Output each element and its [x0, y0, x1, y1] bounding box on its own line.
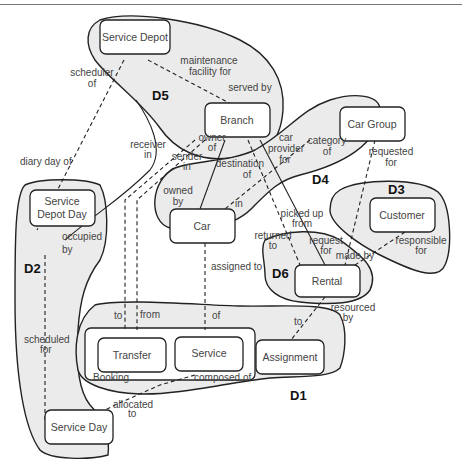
domain-d5-label: D5 — [152, 88, 169, 103]
rel-category-label-2: of — [323, 146, 332, 157]
booking-label: Booking — [93, 372, 129, 383]
rel-car-provider-label: car — [279, 132, 294, 143]
rel-request-label-2: for — [320, 245, 332, 256]
entity-service-label: Service — [191, 347, 226, 359]
rel-served-by-label: served by — [228, 82, 271, 93]
rel-scheduled-label-2: for — [40, 344, 52, 355]
entity-car-group-label: Car Group — [347, 118, 396, 130]
entity-service-depot-day-label-1: Service — [44, 195, 79, 207]
rel-responsible-label-2: for — [415, 245, 427, 256]
rel-receiver-label-2: in — [144, 149, 152, 160]
rel-returned-label-2: to — [269, 240, 278, 251]
domain-d2-label: D2 — [24, 261, 41, 276]
rel-composed-label: composed of — [194, 372, 251, 383]
rel-owned-by-label: owned — [163, 185, 192, 196]
entity-assignment-label: Assignment — [263, 351, 318, 363]
rel-requested-label-2: for — [385, 157, 397, 168]
domain-d3-label: D3 — [388, 182, 405, 197]
domain-d6-label: D6 — [272, 266, 289, 281]
rel-category-label: category — [308, 135, 346, 146]
entity-customer-label: Customer — [379, 209, 425, 221]
rel-destination-label: destination — [216, 158, 264, 169]
rel-car-provider-label-3: for — [279, 154, 291, 165]
rel-from-label: from — [140, 309, 160, 320]
rel-occupied-label: occupied — [62, 231, 102, 242]
domain-d1-label: D1 — [290, 388, 307, 403]
rel-of-label: of — [212, 310, 221, 321]
rel-in-label: in — [235, 198, 243, 209]
rel-allocated-label-2: to — [128, 408, 137, 419]
entity-branch-label: Branch — [220, 114, 253, 126]
rel-destination-label-2: of — [243, 169, 252, 180]
rel-sender-label-2: in — [183, 161, 191, 172]
rel-owned-by-label-2: by — [173, 196, 184, 207]
entity-service-depot-label: Service Depot — [102, 31, 168, 43]
rel-car-provider-label-2: provider — [268, 143, 305, 154]
entity-service-depot-day-label-2: Depot Day — [37, 208, 87, 220]
rel-scheduler-label: scheduler — [70, 67, 114, 78]
domain-d4-label: D4 — [312, 172, 329, 187]
entity-service-day-label: Service Day — [51, 421, 108, 433]
rel-occupied-label-2: by — [62, 244, 73, 255]
rel-made-by-label: made by — [336, 250, 374, 261]
rel-diary-day-label: diary day of — [20, 156, 72, 167]
rel-to-assignment-label: to — [294, 316, 303, 327]
rel-scheduler-label-2: of — [88, 78, 97, 89]
er-diagram: Service Depot Branch Car Group Customer … — [0, 0, 462, 468]
rel-picked-up-label-2: from — [292, 218, 312, 229]
rel-assigned-label: assigned to — [211, 261, 263, 272]
rel-requested-label: requested — [369, 146, 413, 157]
rel-to-label: to — [114, 310, 123, 321]
rel-maintenance-label-2: facility for — [189, 66, 232, 77]
rel-resourced-label-2: by — [343, 312, 354, 323]
entity-rental-label: Rental — [312, 275, 342, 287]
entity-car-label: Car — [194, 220, 211, 232]
rel-owner-label-2: of — [208, 142, 217, 153]
entity-transfer-label: Transfer — [113, 349, 152, 361]
rel-maintenance-label: maintenance — [180, 55, 238, 66]
